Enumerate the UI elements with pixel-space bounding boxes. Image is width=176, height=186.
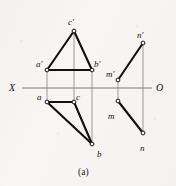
vertex-markers-group xyxy=(45,29,145,146)
axis-label-x: X xyxy=(9,83,15,93)
figure-caption: (a) xyxy=(78,168,89,178)
vertex-label-a-prime: a' xyxy=(36,60,42,69)
vertex-marker-m xyxy=(116,99,120,103)
vertex-marker-b xyxy=(90,142,94,146)
edge-ap-cp xyxy=(47,31,74,70)
vertex-marker-m-prime xyxy=(116,78,120,82)
edge-cp-bp xyxy=(74,31,92,70)
figure-canvas: X O c'a'b'acbm'n'mn (a) xyxy=(0,0,176,186)
vertex-label-m-prime: m' xyxy=(106,70,114,79)
edge-mp-np xyxy=(118,43,143,80)
vertex-marker-n-prime xyxy=(141,41,145,45)
edge-m-n xyxy=(118,101,143,133)
vertex-marker-c-prime xyxy=(72,29,76,33)
edge-a-b xyxy=(47,102,92,144)
vertex-label-b: b xyxy=(97,150,102,159)
vertex-marker-a-prime xyxy=(45,68,49,72)
vertex-marker-n xyxy=(141,131,145,135)
vertex-label-n-prime: n' xyxy=(137,31,143,40)
axis-label-o: O xyxy=(156,83,163,93)
vertex-label-n: n xyxy=(140,144,145,153)
solid-edges-group xyxy=(47,31,143,144)
vertex-label-m: m xyxy=(108,112,115,121)
vertex-label-c: c xyxy=(76,93,80,102)
projection-diagram xyxy=(0,0,176,186)
vertex-marker-a xyxy=(45,100,49,104)
edge-c-b xyxy=(74,102,92,144)
vertex-label-c-prime: c' xyxy=(68,18,74,27)
vertex-label-b-prime: b' xyxy=(94,60,100,69)
vertex-label-a: a xyxy=(37,93,42,102)
